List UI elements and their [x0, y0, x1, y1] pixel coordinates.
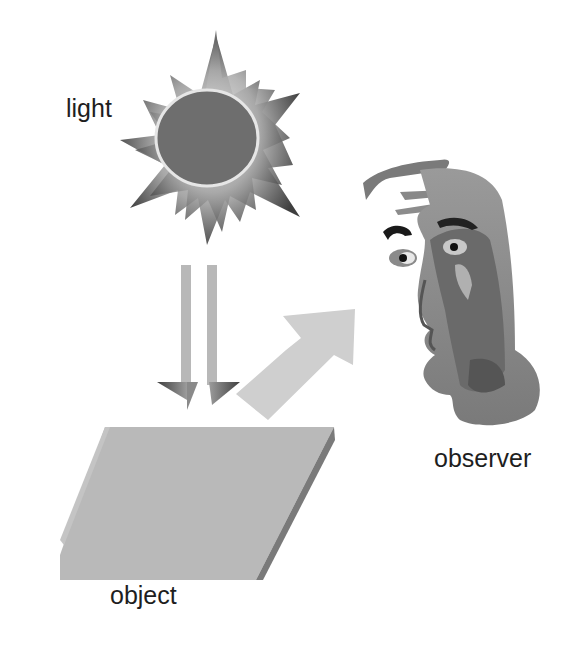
observer-label: observer [434, 446, 531, 471]
arrowhead-right [209, 382, 240, 405]
object-slab [60, 427, 335, 580]
incident-light-arrow [157, 265, 240, 410]
object-label: object [110, 583, 177, 608]
light-label: light [66, 96, 112, 121]
sun-core [156, 90, 258, 186]
sun-icon [120, 30, 300, 245]
reflected-light-arrow [236, 309, 355, 420]
observer-face-icon [363, 159, 540, 425]
arrowhead-left [157, 382, 187, 400]
